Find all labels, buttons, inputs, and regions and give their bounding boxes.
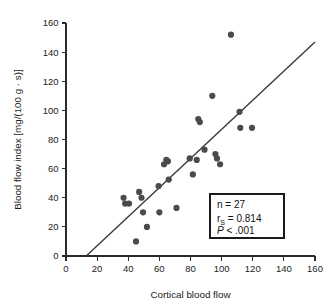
x-tick-label-8: 160 [307, 263, 323, 274]
data-point [120, 195, 126, 201]
data-point [155, 183, 161, 189]
statistics-annotation-box: n = 27rS = 0.814P < .001 [210, 194, 284, 238]
data-point [190, 171, 196, 177]
data-point [165, 158, 171, 164]
x-tick-label-6: 120 [245, 263, 261, 274]
y-tick-label-4: 80 [48, 134, 59, 145]
y-tick-label-7: 140 [43, 47, 59, 58]
stat-line-p: P < .001 [217, 225, 255, 236]
data-point [214, 155, 220, 161]
scatter-chart: 0204060801001201401600204060801001201401… [0, 0, 335, 306]
data-point [237, 125, 243, 131]
axis-titles-group: Cortical blood flowBlood flow index [mg/… [12, 69, 231, 300]
data-point [140, 209, 146, 215]
chart-page: 0204060801001201401600204060801001201401… [0, 0, 335, 306]
y-tick-label-0: 0 [53, 250, 58, 261]
data-point [187, 155, 193, 161]
data-point [194, 157, 200, 163]
x-axis-title: Cortical blood flow [150, 289, 231, 300]
data-point [144, 224, 150, 230]
y-tick-label-1: 20 [48, 221, 59, 232]
data-point [156, 209, 162, 215]
data-point [197, 119, 203, 125]
data-point [217, 161, 223, 167]
data-point [236, 109, 242, 115]
x-tick-label-1: 20 [92, 263, 103, 274]
x-tick-label-2: 40 [123, 263, 134, 274]
x-tick-label-3: 60 [154, 263, 165, 274]
y-tick-label-2: 40 [48, 192, 59, 203]
y-tick-label-3: 60 [48, 163, 59, 174]
x-tick-label-4: 80 [185, 263, 196, 274]
y-tick-label-5: 100 [43, 105, 59, 116]
x-tick-label-0: 0 [63, 263, 68, 274]
x-tick-label-5: 100 [214, 263, 230, 274]
data-point [173, 205, 179, 211]
y-tick-label-8: 160 [43, 17, 59, 28]
data-point [209, 93, 215, 99]
data-point [228, 32, 234, 38]
y-axis-title: Blood flow index [mg/(100 g · s)] [12, 69, 23, 210]
stat-line-n: n = 27 [217, 199, 246, 210]
data-point [126, 200, 132, 206]
y-tick-label-6: 120 [43, 76, 59, 87]
data-point [201, 147, 207, 153]
data-point [133, 238, 139, 244]
data-point [138, 195, 144, 201]
data-point [136, 189, 142, 195]
data-point [166, 176, 172, 182]
data-point [249, 125, 255, 131]
x-tick-label-7: 140 [276, 263, 292, 274]
